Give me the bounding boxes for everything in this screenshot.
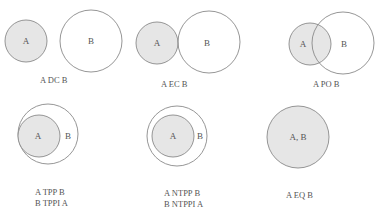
circle-label-ab: A, B bbox=[289, 132, 306, 142]
panel-tpp: A B bbox=[18, 104, 78, 164]
caption-ec: A EC B bbox=[161, 79, 187, 90]
caption-ntpp-1: A NTPP B bbox=[164, 188, 200, 199]
circle-label-a: A bbox=[300, 39, 307, 49]
circle-label-b: B bbox=[204, 38, 210, 48]
panel-eq: A, B bbox=[267, 106, 329, 168]
caption-ntpp-2: B NTPPI A bbox=[164, 199, 203, 210]
circle-label-a: A bbox=[154, 38, 161, 48]
caption-tpp-2: B TPPI A bbox=[35, 198, 68, 209]
circle-label-b: B bbox=[65, 131, 71, 141]
circle-a bbox=[289, 23, 331, 65]
circle-label-a: A bbox=[170, 131, 177, 141]
circle-label-b: B bbox=[341, 39, 347, 49]
panel-ec: A B bbox=[136, 11, 240, 73]
caption-eq: A EQ B bbox=[286, 190, 313, 201]
rcc8-diagram: A B A B A B A B A B A, B bbox=[0, 0, 379, 218]
caption-tpp-1: A TPP B bbox=[35, 187, 65, 198]
panel-ntpp: A B bbox=[147, 106, 207, 166]
circle-label-b: B bbox=[197, 131, 203, 141]
caption-dc: A DC B bbox=[40, 75, 67, 86]
panel-po: A B bbox=[289, 12, 374, 74]
circle-label-a: A bbox=[35, 131, 42, 141]
circle-label-b: B bbox=[88, 36, 94, 46]
caption-po: A PO B bbox=[313, 79, 339, 90]
panel-dc: A B bbox=[5, 10, 122, 72]
circle-label-a: A bbox=[23, 36, 30, 46]
